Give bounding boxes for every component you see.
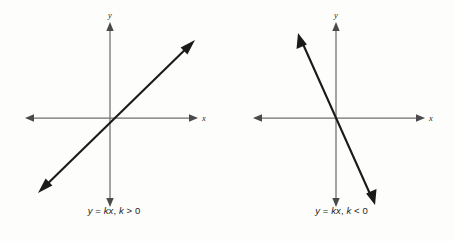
x-axis-label-positive: x	[201, 113, 206, 123]
x-axis-arrowhead-left-icon	[25, 114, 34, 121]
y-axis-label-positive: y	[107, 10, 112, 20]
line-arrowhead-lower-right-icon	[366, 189, 376, 205]
line-arrowhead-upper-left-icon	[297, 33, 307, 49]
x-axis-label-negative: x	[428, 113, 433, 123]
graph-line-segment	[45, 47, 188, 186]
x-axis-arrowhead-right-icon	[416, 114, 425, 121]
variation-line-positive	[38, 40, 195, 193]
caption-rhs: kx	[331, 205, 341, 216]
x-axis-arrowhead-left-icon	[253, 114, 262, 121]
x-axis-negative	[253, 114, 425, 121]
caption-equals: =	[93, 205, 104, 216]
direct-variation-figure: y x y x y = kx, k > 0 y = kx, k < 0	[0, 0, 455, 241]
x-axis-arrowhead-right-icon	[189, 114, 198, 121]
y-axis-positive	[106, 22, 113, 207]
caption-relation: < 0	[351, 205, 368, 216]
caption-equals: =	[320, 205, 331, 216]
y-axis-arrowhead-up-icon	[106, 22, 113, 31]
y-axis-arrowhead-up-icon	[332, 22, 339, 31]
caption-rhs: kx	[104, 205, 114, 216]
caption-negative-slope: y = kx, k < 0	[228, 205, 455, 216]
caption-positive-slope: y = kx, k > 0	[0, 205, 228, 216]
caption-relation: > 0	[124, 205, 141, 216]
y-axis-label-negative: y	[333, 10, 338, 20]
